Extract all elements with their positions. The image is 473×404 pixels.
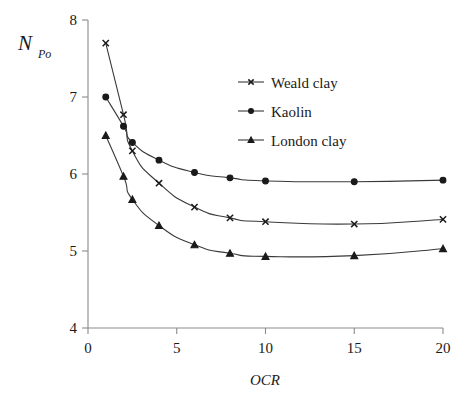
x-axis-ticks: 05101520 (84, 328, 450, 356)
data-point-marker-circle (263, 178, 269, 184)
legend-label: London clay (271, 133, 347, 149)
data-point-marker-triangle (156, 222, 163, 228)
data-point-marker-circle (129, 140, 135, 146)
y-axis-title: N Po (17, 31, 51, 61)
chart-figure: 45678 05101520 N Po OCR Weald clayKaolin… (0, 0, 473, 404)
data-point-marker-circle (351, 179, 357, 185)
data-point-marker-circle (440, 177, 446, 183)
data-point-marker-circle (156, 157, 162, 163)
series-london-clay (102, 132, 446, 259)
data-point-marker-triangle (102, 132, 109, 138)
y-tick-label: 5 (70, 243, 78, 259)
y-tick-label: 7 (70, 89, 78, 105)
y-tick-label: 6 (70, 166, 78, 182)
legend-item-london-clay[interactable]: London clay (238, 133, 347, 149)
data-point-marker-triangle (129, 196, 136, 202)
x-tick-label: 15 (347, 340, 362, 356)
data-point-marker-triangle (120, 173, 127, 179)
y-axis-title-main: N (17, 31, 33, 55)
axes-group (88, 20, 443, 328)
x-tick-label: 20 (436, 340, 451, 356)
chart-legend: Weald clayKaolinLondon clay (238, 75, 347, 149)
legend-label: Kaolin (271, 104, 312, 120)
chart-canvas: 45678 05101520 N Po OCR Weald clayKaolin… (0, 0, 473, 404)
y-tick-label: 8 (70, 12, 78, 28)
x-tick-label: 10 (258, 340, 273, 356)
data-point-marker-circle (121, 123, 127, 129)
legend-label: Weald clay (271, 75, 338, 91)
data-point-marker-circle (103, 94, 109, 100)
data-point-marker-circle (249, 109, 254, 114)
legend-item-weald-clay[interactable]: Weald clay (238, 75, 338, 91)
data-point-marker-triangle (248, 137, 254, 143)
legend-item-kaolin[interactable]: Kaolin (238, 104, 312, 120)
data-point-marker-triangle (191, 241, 198, 247)
y-tick-label: 4 (70, 320, 78, 336)
x-tick-label: 5 (173, 340, 181, 356)
y-axis-ticks: 45678 (70, 12, 89, 336)
data-point-marker-circle (227, 175, 233, 181)
data-point-marker-circle (192, 170, 198, 176)
x-axis-title: OCR (250, 372, 280, 388)
y-axis-title-subscript: Po (37, 47, 51, 61)
series-line (106, 136, 443, 258)
x-tick-label: 0 (84, 340, 92, 356)
data-series-group (102, 40, 446, 259)
